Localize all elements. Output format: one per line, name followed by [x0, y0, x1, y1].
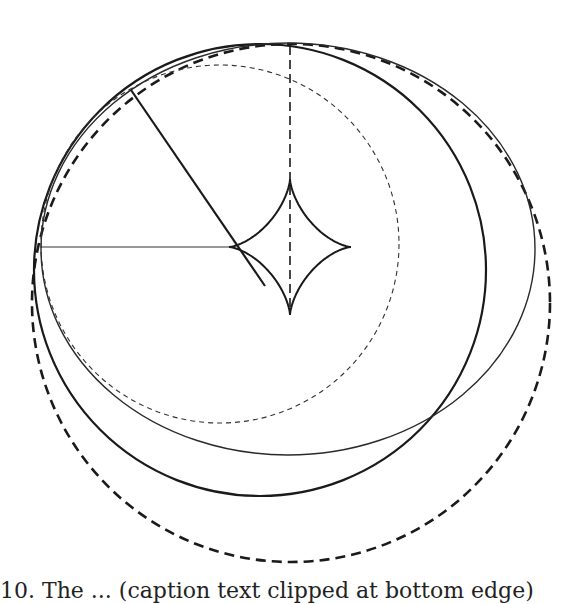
figure-caption: 10. The ... (caption text clipped at bot… [0, 578, 577, 604]
thin-solid-ellipse [41, 43, 535, 455]
thick-dashed-circle [32, 44, 550, 562]
thick-solid-circle [34, 44, 486, 496]
thin-dashed-circle [41, 65, 399, 423]
diagonal-tangent-line [131, 90, 265, 286]
